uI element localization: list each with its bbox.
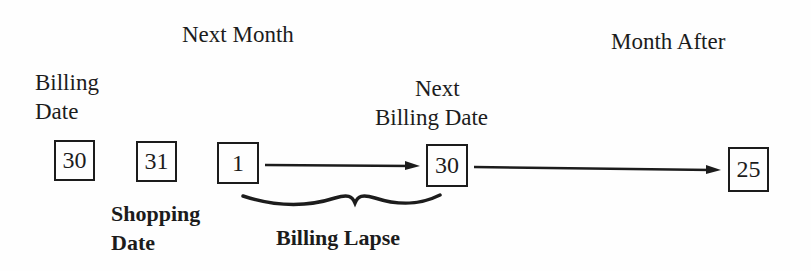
shopping-date-label-line1: Shopping <box>111 200 200 227</box>
billing-lapse-brace <box>243 195 440 205</box>
shopping-date-label-line2: Date <box>111 229 155 256</box>
arrow-1-to-30 <box>265 161 420 170</box>
arrow-30-to-25 <box>474 165 721 174</box>
billing-lapse-label: Billing Lapse <box>276 224 400 251</box>
